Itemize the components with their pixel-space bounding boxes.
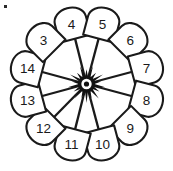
node-label-3: 3 [40,33,48,48]
node-label-9: 9 [127,121,135,136]
node-label-5: 5 [99,17,107,32]
hub-ring-inner [84,81,89,86]
diagram-canvas: Radial wheel diagram with twelve numbere… [0,0,173,171]
node-label-13: 13 [20,93,35,108]
node-label-10: 10 [95,137,110,152]
node-label-11: 11 [64,137,78,152]
radial-wheel-diagram: Radial wheel diagram with twelve numbere… [0,0,173,171]
node-label-7: 7 [143,61,151,76]
node-label-14: 14 [20,61,36,76]
corner-dot [4,5,7,8]
node-label-12: 12 [36,121,51,136]
node-label-6: 6 [127,33,135,48]
node-label-8: 8 [143,93,151,108]
node-label-4: 4 [68,17,76,32]
